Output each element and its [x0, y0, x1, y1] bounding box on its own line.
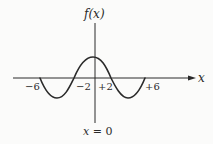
x-axis-label: x: [198, 71, 205, 85]
tick-label-neg6: −6: [25, 81, 40, 92]
y-axis-label: f(x): [83, 7, 105, 21]
tick-label-pos2: +2: [98, 81, 113, 92]
tick-label-neg2: −2: [76, 81, 91, 92]
tick-label-pos6: +6: [145, 81, 160, 92]
function-plot: f(x) x −6 −2 +2 +6 x = 0: [0, 0, 213, 144]
origin-annotation: x = 0: [83, 125, 112, 138]
x-axis-arrowhead-icon: [188, 76, 196, 81]
